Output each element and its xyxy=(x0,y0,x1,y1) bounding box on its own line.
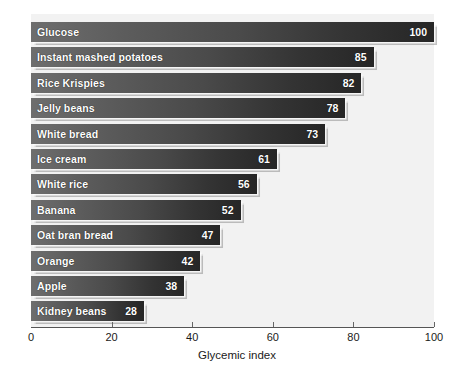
x-axis-tick xyxy=(112,322,113,327)
bar: Ice cream61 xyxy=(31,149,277,169)
x-axis-tick-label: 20 xyxy=(105,331,117,343)
bar-category-label: Apple xyxy=(37,280,67,292)
bar-row: Orange42 xyxy=(31,248,434,273)
x-axis-line xyxy=(31,327,434,328)
x-axis-tick xyxy=(273,322,274,327)
bar: Instant mashed potatoes85 xyxy=(31,47,374,67)
bar-value-label: 38 xyxy=(165,280,177,292)
bar-category-label: Ice cream xyxy=(37,153,86,165)
bar-value-label: 28 xyxy=(125,305,137,317)
bar: Glucose100 xyxy=(31,22,434,42)
bar-category-label: Kidney beans xyxy=(37,305,106,317)
bar-row: Instant mashed potatoes85 xyxy=(31,44,434,69)
bar-value-label: 78 xyxy=(327,102,339,114)
bar: Oat bran bread47 xyxy=(31,225,220,245)
bar: White bread73 xyxy=(31,124,325,144)
bar-category-label: Glucose xyxy=(37,26,79,38)
bar-category-label: Rice Krispies xyxy=(37,77,105,89)
bar-value-label: 82 xyxy=(343,77,355,89)
bar: Apple38 xyxy=(31,276,184,296)
bar-row: White rice56 xyxy=(31,171,434,196)
bar-row: Kidney beans28 xyxy=(31,298,434,323)
x-axis-tick-label: 40 xyxy=(186,331,198,343)
x-axis-tick-label: 100 xyxy=(425,331,443,343)
bar-value-label: 100 xyxy=(409,26,427,38)
x-axis-title: Glycemic index xyxy=(0,349,474,361)
glycemic-index-bar-chart: Glucose100Instant mashed potatoes85Rice … xyxy=(0,0,474,375)
bar: Banana52 xyxy=(31,200,241,220)
bar-category-label: Jelly beans xyxy=(37,102,95,114)
plot-area: Glucose100Instant mashed potatoes85Rice … xyxy=(31,14,434,327)
bar-row: Rice Krispies82 xyxy=(31,70,434,95)
x-axis-tick xyxy=(434,322,435,327)
bar-category-label: Oat bran bread xyxy=(37,229,113,241)
bar-category-label: Instant mashed potatoes xyxy=(37,51,163,63)
bar-row: Oat bran bread47 xyxy=(31,222,434,247)
bar-value-label: 73 xyxy=(307,128,319,140)
bar-category-label: White rice xyxy=(37,178,88,190)
bar-row: Ice cream61 xyxy=(31,146,434,171)
bar-row: Apple38 xyxy=(31,273,434,298)
bar-value-label: 52 xyxy=(222,204,234,216)
bar-row: Jelly beans78 xyxy=(31,95,434,120)
bar: Orange42 xyxy=(31,251,200,271)
bar: Rice Krispies82 xyxy=(31,73,361,93)
x-axis-tick-label: 60 xyxy=(267,331,279,343)
bar: Jelly beans78 xyxy=(31,98,345,118)
bar-value-label: 42 xyxy=(182,255,194,267)
bar-row: Banana52 xyxy=(31,197,434,222)
x-axis-tick-label: 0 xyxy=(28,331,34,343)
bar-row: Glucose100 xyxy=(31,19,434,44)
x-axis-tick-label: 80 xyxy=(347,331,359,343)
bar-row: White bread73 xyxy=(31,121,434,146)
bar-value-label: 47 xyxy=(202,229,214,241)
bar: Kidney beans28 xyxy=(31,301,144,321)
x-axis-tick xyxy=(192,322,193,327)
bar-category-label: Banana xyxy=(37,204,76,216)
bar-value-label: 56 xyxy=(238,178,250,190)
bar-category-label: White bread xyxy=(37,128,98,140)
bar-category-label: Orange xyxy=(37,255,74,267)
bar-value-label: 85 xyxy=(355,51,367,63)
bar: White rice56 xyxy=(31,174,257,194)
x-axis-tick xyxy=(353,322,354,327)
bar-value-label: 61 xyxy=(258,153,270,165)
